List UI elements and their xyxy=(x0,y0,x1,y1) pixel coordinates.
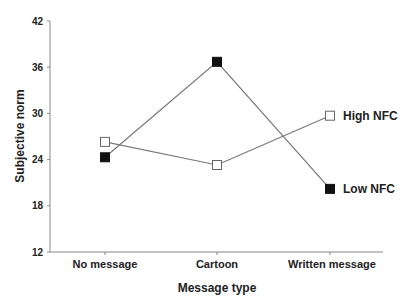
series-line xyxy=(105,116,330,165)
y-tick-label: 24 xyxy=(32,154,44,165)
y-axis-label: Subjective norm xyxy=(13,89,27,182)
x-tick-label: Cartoon xyxy=(196,258,238,270)
x-axis: No messageCartoonWritten message xyxy=(50,252,383,270)
open-square-marker xyxy=(326,111,335,120)
y-axis: 121824303642 xyxy=(32,16,50,258)
x-axis-label: Message type xyxy=(178,281,257,295)
filled-square-marker xyxy=(213,57,222,66)
series-group: High NFCLow NFC xyxy=(101,57,398,196)
series-label: Low NFC xyxy=(343,182,395,196)
open-square-marker xyxy=(213,160,222,169)
x-tick-label: No message xyxy=(73,258,138,270)
y-tick-label: 12 xyxy=(32,247,44,258)
series-label: High NFC xyxy=(343,109,398,123)
y-tick-label: 42 xyxy=(32,16,44,27)
filled-square-marker xyxy=(101,153,110,162)
y-tick-label: 18 xyxy=(32,200,44,211)
open-square-marker xyxy=(101,137,110,146)
y-tick-label: 36 xyxy=(32,62,44,73)
filled-square-marker xyxy=(326,184,335,193)
y-tick-label: 30 xyxy=(32,108,44,119)
line-chart: 121824303642 No messageCartoonWritten me… xyxy=(0,0,408,305)
x-tick-label: Written message xyxy=(288,258,376,270)
